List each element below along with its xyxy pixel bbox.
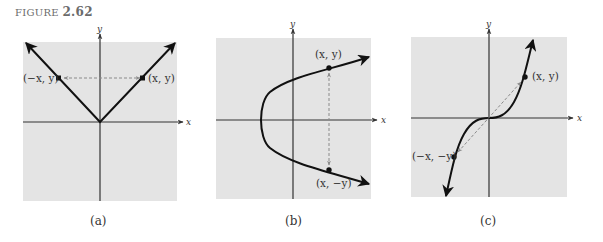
point-label-x-y: (x, y)	[315, 48, 342, 60]
point-marker	[140, 76, 145, 81]
caption-b: (b)	[285, 214, 302, 228]
point-label-x-y: (x, y)	[148, 72, 175, 84]
point-label-x-neg-y: (x, −y)	[316, 177, 352, 189]
x-axis-label: x	[381, 115, 386, 125]
y-axis-label: y	[96, 24, 103, 34]
point-marker	[326, 65, 331, 70]
caption-c: (c)	[480, 214, 496, 228]
point-label-x-y: (x, y)	[532, 70, 559, 82]
panel-a: x y (−x, y) (x, y) (a)	[23, 24, 191, 228]
y-axis-label: y	[289, 19, 296, 29]
point-marker	[522, 74, 527, 79]
point-marker	[326, 167, 331, 172]
x-axis-label: x	[577, 113, 582, 123]
point-label-neg-x-neg-y: (−x, −y)	[412, 150, 456, 162]
x-axis-label: x	[186, 117, 191, 127]
caption-a: (a)	[90, 214, 107, 228]
y-axis-label: y	[485, 19, 492, 29]
panel-c: x y (x, y) (−x, −y) (c)	[411, 19, 582, 228]
panel-b: x y (x, y) (x, −y) (b)	[216, 19, 386, 228]
figure-canvas: x y (−x, y) (x, y) (a) x y (x, y) (x, −y…	[0, 0, 603, 242]
point-label-neg-x-y: (−x, y)	[23, 72, 59, 84]
